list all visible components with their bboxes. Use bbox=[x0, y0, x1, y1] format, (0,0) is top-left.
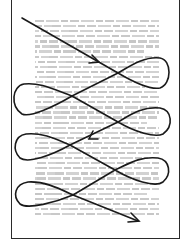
reading-path-diagram bbox=[0, 0, 187, 245]
reading-path bbox=[14, 18, 170, 221]
